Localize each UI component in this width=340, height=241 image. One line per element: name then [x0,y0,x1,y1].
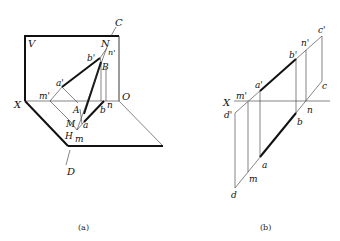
label-D: D [66,166,75,177]
projector-a-prime-A [62,87,78,103]
h-plane-left-edge [25,101,68,146]
label-n-prime-a: n' [108,48,115,57]
label-A: A [72,105,80,115]
label-X-a: X [13,99,22,110]
label-a-prime-a: a' [56,78,64,88]
line-c-extension [111,27,116,36]
segment-b-prime-B [100,58,101,62]
projection-diagram: V X O C D N b' n' B a' m' A M a b n H m … [0,0,340,241]
label-m-a: m [75,134,84,144]
label-b-prime-a: b' [87,53,95,63]
label-m-prime-a: m' [39,91,50,101]
label-H: H [64,131,73,141]
label-m-b: m [249,174,258,184]
label-b-a: b [100,105,106,115]
caption-a: (a) [78,223,89,232]
label-X-b: X [222,97,231,108]
label-d: d [231,190,237,200]
caption-b: (b) [260,223,271,232]
label-V: V [28,38,37,49]
label-n-prime-b: n' [301,38,309,48]
h-plane-right-edge [119,101,163,146]
figure-b: X c' n' b' a' m' d' c n b a m d (b) [222,25,330,232]
label-a-prime-b: a' [255,80,263,90]
segment-a-prime-b-prime-b [260,59,296,91]
segment-a-b-b [260,113,296,157]
label-b-b: b [297,117,303,127]
label-c: c [322,81,327,91]
line-d-extension [66,150,70,165]
label-c-prime: c' [318,25,326,35]
label-m-prime-b: m' [236,91,247,101]
label-d-prime: d' [224,110,232,120]
label-M: M [65,119,76,129]
figure-a: V X O C D N b' n' B a' m' A M a b n H m … [13,17,163,232]
label-a-b: a [262,160,267,170]
label-C: C [115,17,123,28]
label-B: B [101,62,109,72]
projector-m-prime-M [50,101,70,121]
label-a-a: a [83,120,88,130]
segment-m-prime-a-prime [50,87,62,101]
label-n-b: n [307,105,313,115]
label-b-prime-b: b' [289,50,297,60]
label-n-a: n [107,100,113,110]
label-O: O [122,91,130,102]
